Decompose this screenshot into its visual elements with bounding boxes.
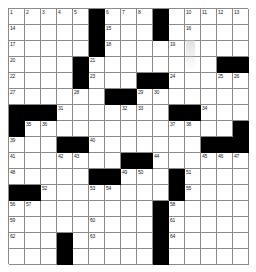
crossword-cell[interactable] (121, 233, 137, 249)
crossword-cell[interactable] (57, 169, 73, 185)
crossword-cell[interactable] (89, 249, 105, 265)
crossword-cell[interactable]: 29 (137, 89, 153, 105)
crossword-cell[interactable] (57, 121, 73, 137)
crossword-grid[interactable]: 1234567810111213141516171819202122232425… (8, 8, 248, 264)
crossword-cell[interactable] (105, 201, 121, 217)
crossword-cell[interactable] (73, 185, 89, 201)
crossword-cell[interactable] (137, 185, 153, 201)
crossword-cell[interactable]: 15 (105, 25, 121, 41)
crossword-cell[interactable] (217, 105, 233, 121)
crossword-cell[interactable] (233, 201, 249, 217)
crossword-cell[interactable]: 61 (169, 217, 185, 233)
crossword-cell[interactable]: 47 (233, 153, 249, 169)
crossword-cell[interactable]: 17 (9, 41, 25, 57)
crossword-cell[interactable]: 21 (89, 57, 105, 73)
crossword-cell[interactable] (153, 57, 169, 73)
crossword-cell[interactable] (121, 25, 137, 41)
crossword-cell[interactable]: 40 (89, 137, 105, 153)
crossword-cell[interactable] (57, 185, 73, 201)
crossword-cell[interactable]: 2 (25, 9, 41, 25)
crossword-cell[interactable] (57, 73, 73, 89)
crossword-cell[interactable]: 63 (89, 233, 105, 249)
crossword-cell[interactable]: 60 (89, 217, 105, 233)
crossword-cell[interactable]: 34 (201, 105, 217, 121)
crossword-cell[interactable] (153, 105, 169, 121)
crossword-cell[interactable] (201, 57, 217, 73)
crossword-cell[interactable] (217, 41, 233, 57)
crossword-cell[interactable]: 30 (153, 89, 169, 105)
crossword-cell[interactable]: 19 (169, 41, 185, 57)
crossword-cell[interactable] (73, 217, 89, 233)
crossword-cell[interactable] (73, 25, 89, 41)
crossword-cell[interactable] (233, 105, 249, 121)
crossword-cell[interactable] (217, 185, 233, 201)
crossword-cell[interactable] (121, 185, 137, 201)
crossword-cell[interactable]: 37 (169, 121, 185, 137)
crossword-cell[interactable]: 4 (57, 9, 73, 25)
crossword-cell[interactable] (185, 89, 201, 105)
crossword-cell[interactable] (169, 9, 185, 25)
crossword-cell[interactable] (105, 233, 121, 249)
crossword-cell[interactable]: 48 (9, 169, 25, 185)
crossword-cell[interactable] (153, 169, 169, 185)
crossword-cell[interactable]: 3 (41, 9, 57, 25)
crossword-cell[interactable] (41, 89, 57, 105)
crossword-cell[interactable] (169, 249, 185, 265)
crossword-cell[interactable] (185, 41, 201, 57)
crossword-cell[interactable] (137, 201, 153, 217)
crossword-cell[interactable] (217, 249, 233, 265)
crossword-cell[interactable] (201, 233, 217, 249)
crossword-cell[interactable] (57, 57, 73, 73)
crossword-cell[interactable] (25, 233, 41, 249)
crossword-cell[interactable]: 53 (89, 185, 105, 201)
crossword-cell[interactable]: 28 (73, 89, 89, 105)
crossword-cell[interactable]: 20 (9, 57, 25, 73)
crossword-cell[interactable] (217, 89, 233, 105)
crossword-cell[interactable] (185, 153, 201, 169)
crossword-cell[interactable] (57, 201, 73, 217)
crossword-cell[interactable] (233, 169, 249, 185)
crossword-cell[interactable] (73, 121, 89, 137)
crossword-cell[interactable] (41, 73, 57, 89)
crossword-cell[interactable]: 59 (9, 217, 25, 233)
crossword-cell[interactable]: 10 (185, 9, 201, 25)
crossword-cell[interactable] (105, 105, 121, 121)
crossword-cell[interactable] (137, 57, 153, 73)
crossword-cell[interactable] (57, 25, 73, 41)
crossword-cell[interactable] (41, 249, 57, 265)
crossword-cell[interactable] (137, 41, 153, 57)
crossword-cell[interactable] (121, 201, 137, 217)
crossword-cell[interactable] (185, 137, 201, 153)
crossword-cell[interactable]: 23 (89, 73, 105, 89)
crossword-cell[interactable] (41, 201, 57, 217)
crossword-cell[interactable]: 31 (57, 105, 73, 121)
crossword-cell[interactable] (73, 105, 89, 121)
crossword-cell[interactable] (137, 217, 153, 233)
crossword-cell[interactable]: 18 (105, 41, 121, 57)
crossword-cell[interactable]: 45 (201, 153, 217, 169)
crossword-cell[interactable] (185, 217, 201, 233)
crossword-cell[interactable] (41, 137, 57, 153)
crossword-cell[interactable] (137, 233, 153, 249)
crossword-cell[interactable]: 38 (185, 121, 201, 137)
crossword-cell[interactable] (25, 73, 41, 89)
crossword-cell[interactable] (137, 121, 153, 137)
crossword-cell[interactable] (25, 89, 41, 105)
crossword-cell[interactable] (89, 153, 105, 169)
crossword-cell[interactable] (153, 185, 169, 201)
crossword-cell[interactable] (153, 121, 169, 137)
crossword-cell[interactable]: 8 (137, 9, 153, 25)
crossword-cell[interactable] (185, 57, 201, 73)
crossword-cell[interactable] (25, 249, 41, 265)
crossword-cell[interactable] (201, 185, 217, 201)
crossword-cell[interactable]: 26 (233, 73, 249, 89)
crossword-cell[interactable]: 22 (9, 73, 25, 89)
crossword-cell[interactable]: 62 (9, 233, 25, 249)
crossword-cell[interactable] (217, 25, 233, 41)
crossword-cell[interactable]: 64 (169, 233, 185, 249)
crossword-cell[interactable] (9, 249, 25, 265)
crossword-cell[interactable] (73, 233, 89, 249)
crossword-cell[interactable] (201, 25, 217, 41)
crossword-cell[interactable]: 13 (233, 9, 249, 25)
crossword-cell[interactable] (41, 169, 57, 185)
